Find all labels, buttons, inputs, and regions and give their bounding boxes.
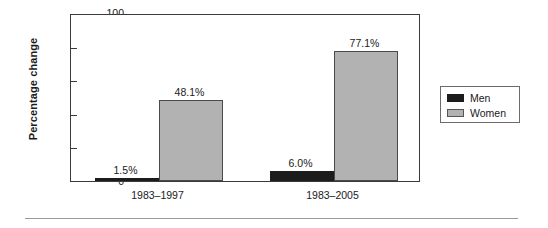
y-axis-title: Percentage change <box>27 9 39 169</box>
legend-label-women: Women <box>470 108 506 119</box>
bar-men-2 <box>270 171 334 181</box>
y-tick-mark <box>71 148 77 149</box>
bar-value-label-men-1: 1.5% <box>82 165 170 176</box>
y-tick-mark <box>71 81 77 82</box>
bar-value-label-women-2: 77.1% <box>321 38 409 49</box>
bar-value-label-women-1: 48.1% <box>146 87 234 98</box>
x-category-label-1: 1983–1997 <box>70 190 245 201</box>
y-tick-mark <box>71 48 77 49</box>
percentage-change-bar-chart: Percentage change 020406080100 1983–1997… <box>0 0 548 228</box>
chart-legend: Men Women <box>440 86 520 123</box>
x-category-label-2: 1983–2005 <box>245 190 420 201</box>
bar-value-label-men-2: 6.0% <box>257 158 345 169</box>
bar-men-1 <box>95 178 159 181</box>
legend-label-men: Men <box>470 93 490 104</box>
y-tick-mark <box>71 115 77 116</box>
legend-swatch-men-icon <box>447 94 464 102</box>
legend-item-men: Men <box>447 91 519 105</box>
legend-item-women: Women <box>447 106 519 120</box>
bottom-divider-rule <box>25 218 518 219</box>
legend-swatch-women-icon <box>447 109 464 117</box>
